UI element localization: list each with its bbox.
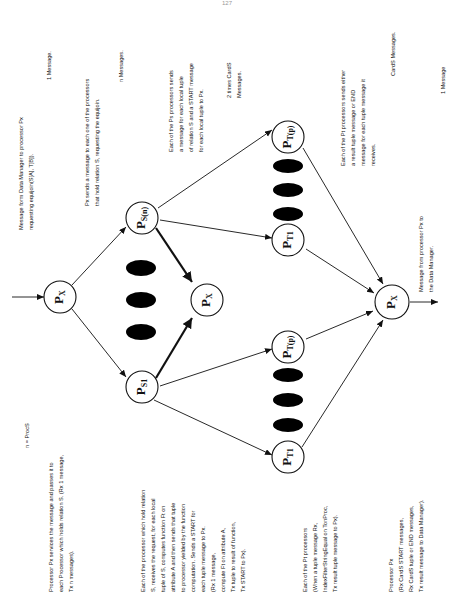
edge-ptp-top-pxend: [303, 148, 383, 284]
annotation-ps-each: Each of the processor which hold relatio…: [138, 490, 248, 592]
edge-psn-pxmid: [156, 228, 192, 282]
node-px-start: PX: [44, 281, 76, 313]
edge-px-ps1: [72, 309, 126, 377]
node-pt-p-top: PT(p): [272, 121, 304, 153]
document-page: 127: [0, 0, 456, 602]
annotation-px-final: Processor Px (Rx CardS START messages, R…: [386, 500, 426, 592]
node-px-mid: PX: [191, 284, 223, 316]
annotation-two-times-cards: 2 times CardS Messages.: [224, 63, 244, 98]
edge-ps1-pt1-bottom: [154, 400, 272, 455]
annotation-dm-request: Message form Data Manager to processor P…: [16, 117, 36, 230]
annotation-px-services: Processor Px services the message and pa…: [46, 455, 76, 592]
node-pt-1-top: PT1: [272, 224, 304, 256]
node-ps-1: PS1: [126, 371, 158, 403]
annotation-n-messages: n Messages.: [116, 50, 126, 82]
annotation-n-definition: n = ProcS: [22, 423, 32, 448]
annotation-cards-messages: CardS Messages.: [388, 32, 398, 76]
node-ps-n: PS(n): [126, 202, 158, 234]
edge-px-psn: [72, 227, 126, 285]
annotation-pt-each-bottom: Each of the Pt processors (When a tuple …: [300, 506, 340, 592]
node-pt-p-bottom: PT(p): [272, 331, 304, 363]
edge-ps1-pxmid: [156, 318, 192, 378]
annotation-ps-sends: Each of the Ps processors sends a messag…: [166, 63, 206, 152]
edge-pt1-top-pxend: [306, 249, 374, 293]
annotation-pt-sends: Each of the Pt processors sends either a…: [338, 70, 378, 166]
annotation-px-to-dm: Message from processor Px to the Data Ma…: [416, 216, 436, 292]
edge-ptp-bottom-pxend: [306, 311, 373, 339]
annotation-px-sends: Px sends a message to each one of the pr…: [82, 79, 102, 206]
node-pt-1-bottom: PT1: [272, 441, 304, 473]
edge-ps1-ptp-bottom: [160, 349, 272, 386]
annotation-one-message-top: 1 Message.: [44, 51, 54, 80]
edge-psn-pt1-top: [160, 220, 272, 238]
node-px-end: PX: [375, 285, 409, 319]
annotation-one-message-end: 1 Message: [438, 67, 448, 94]
edge-pt1-bottom-pxend: [302, 320, 383, 447]
